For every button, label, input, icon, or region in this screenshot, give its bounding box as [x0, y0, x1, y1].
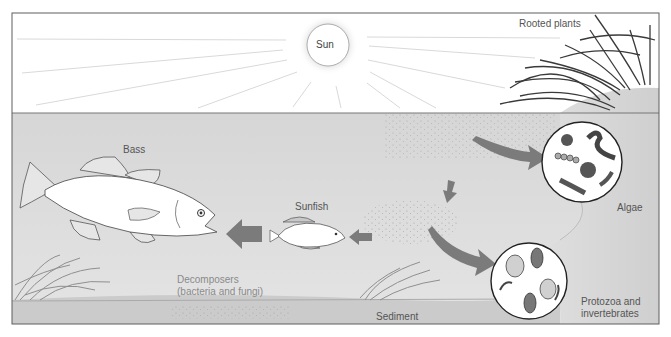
decomposers-label-line1: Decomposers [177, 274, 239, 286]
bass-label: Bass [123, 144, 145, 156]
sunfish-label: Sunfish [295, 201, 328, 213]
pond-ecosystem-diagram [0, 0, 671, 337]
protozoa-label-line2: invertebrates [581, 308, 639, 320]
algae-magnified-icon [542, 122, 622, 202]
algae-label: Algae [617, 202, 643, 214]
sediment-label: Sediment [376, 311, 418, 323]
protozoa-label-line1: Protozoa and [581, 296, 641, 308]
detritus-lower [362, 200, 458, 244]
protozoa-magnified-icon [491, 243, 567, 319]
rooted-plants-label: Rooted plants [519, 18, 581, 30]
sun-label: Sun [316, 39, 334, 51]
decomposer-particles [170, 305, 290, 319]
decomposers-label-line2: (bacteria and fungi) [177, 286, 263, 298]
